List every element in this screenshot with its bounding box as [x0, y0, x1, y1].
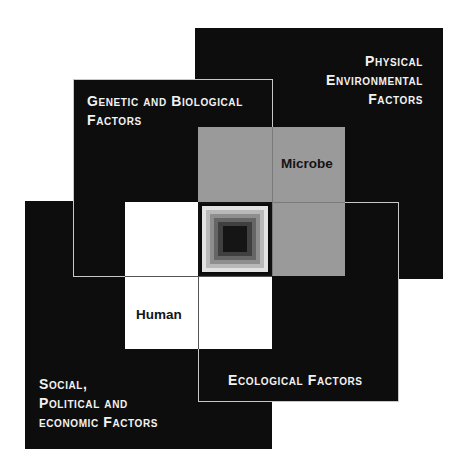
gradient-ring — [223, 226, 247, 252]
label-line: Factors — [326, 90, 423, 109]
microbe-cell-bottom-right — [272, 202, 345, 276]
label-line: Ecological Factors — [228, 371, 363, 390]
intersection-gradient-square — [198, 202, 272, 276]
label-line: Physical — [326, 52, 423, 71]
human-label: Human — [136, 307, 182, 322]
label-line: Social, — [39, 375, 158, 394]
human-cell-bottom-right — [198, 276, 272, 349]
microbe-cell-top-right: Microbe — [272, 127, 345, 202]
ecological-factors-label: Ecological Factors — [228, 371, 363, 390]
label-line: economic Factors — [39, 413, 158, 432]
microbe-cell-top-left — [198, 127, 272, 202]
human-cell-top-left — [125, 202, 198, 276]
label-line: Political and — [39, 394, 158, 413]
physical-environmental-factors-label: Physical Environmental Factors — [326, 52, 423, 109]
human-cell-bottom-left: Human — [125, 276, 198, 349]
social-political-economic-factors-label: Social, Political and economic Factors — [39, 375, 158, 432]
genetic-biological-factors-label: Genetic and Biological Factors — [87, 92, 243, 130]
microbe-label: Microbe — [281, 156, 333, 171]
label-line: Genetic and Biological — [87, 92, 243, 111]
label-line: Environmental — [326, 71, 423, 90]
